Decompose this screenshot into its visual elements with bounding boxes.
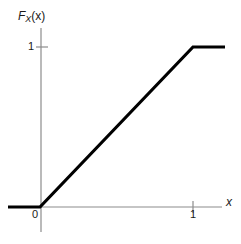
origin-tick-label: 0 bbox=[32, 209, 38, 220]
y-axis-title-argument: (x) bbox=[31, 9, 45, 23]
x-axis-title: x bbox=[226, 196, 232, 208]
cdf-figure: FX(x) 1 0 1 x bbox=[0, 0, 241, 244]
y-tick-label-1: 1 bbox=[28, 41, 34, 52]
x-tick-label-1: 1 bbox=[190, 209, 196, 220]
y-axis-title: FX(x) bbox=[18, 10, 45, 24]
